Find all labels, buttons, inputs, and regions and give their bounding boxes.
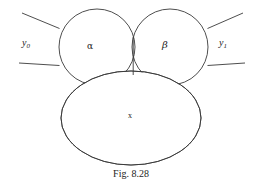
label-y1-subscript: 1 — [223, 42, 227, 50]
topology-diagram — [0, 0, 262, 191]
label-x: x — [128, 112, 132, 120]
edge-y0-upper — [22, 13, 60, 29]
label-alpha: α — [87, 42, 93, 51]
edge-y0-lower — [19, 63, 60, 66]
edge-y1-upper — [208, 13, 244, 29]
label-y0: y0 — [22, 38, 30, 48]
label-y1: y1 — [219, 38, 227, 48]
figure-caption: Fig. 8.28 — [0, 168, 262, 179]
figure-container: y0 y1 α β x Fig. 8.28 — [0, 0, 262, 191]
label-beta: β — [162, 40, 168, 50]
label-y0-subscript: 0 — [26, 42, 30, 50]
edge-y1-lower — [208, 63, 246, 66]
